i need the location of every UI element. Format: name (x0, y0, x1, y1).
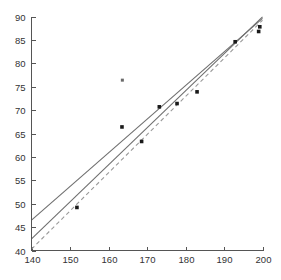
fit-line-reference-line (32, 20, 263, 249)
fit-line-upper-fit (32, 18, 263, 220)
axis-lines-group (32, 17, 263, 251)
y-tick-label-65: 65 (15, 129, 26, 140)
x-tick-label-190: 190 (217, 254, 233, 265)
y-tick-label-75: 75 (15, 82, 26, 93)
data-point-observations-1 (120, 125, 124, 129)
y-tick-label-45: 45 (15, 222, 26, 233)
data-point-observations-5 (195, 90, 199, 94)
data-points-group (75, 25, 261, 209)
data-point-observations-4 (175, 102, 179, 106)
data-point-observations-3 (158, 105, 162, 109)
data-point-observations-0 (75, 206, 79, 210)
y-tick-label-60: 60 (15, 152, 26, 163)
data-point-observations-6 (233, 40, 237, 44)
y-tick-label-70: 70 (15, 105, 26, 116)
scatter-plot-canvas: 4045505560657075808590140150160170180190… (0, 0, 281, 280)
data-point-outlier-0 (121, 79, 124, 82)
data-point-observations-2 (140, 140, 144, 144)
chart-figure: 4045505560657075808590140150160170180190… (0, 0, 281, 280)
x-tick-label-180: 180 (179, 254, 195, 265)
x-tick-label-160: 160 (102, 254, 118, 265)
y-tick-label-50: 50 (15, 199, 26, 210)
x-tick-label-170: 170 (140, 254, 156, 265)
x-tick-label-150: 150 (63, 254, 79, 265)
y-tick-label-85: 85 (15, 35, 26, 46)
y-tick-label-80: 80 (15, 58, 26, 69)
y-tick-label-90: 90 (15, 12, 26, 23)
data-point-observations-7 (257, 30, 261, 34)
x-tick-label-200: 200 (256, 254, 272, 265)
fit-lines-group (32, 17, 263, 249)
y-tick-label-55: 55 (15, 175, 26, 186)
fit-line-lower-fit (32, 17, 263, 239)
data-point-observations-8 (258, 25, 262, 29)
x-tick-label-140: 140 (25, 254, 41, 265)
